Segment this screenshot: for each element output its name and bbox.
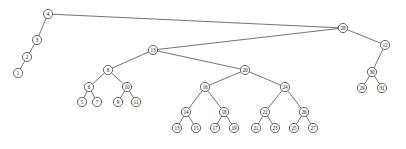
tree-node[interactable]: 7 xyxy=(92,97,101,106)
tree-node[interactable]: 31 xyxy=(377,83,386,92)
tree-node-circle xyxy=(229,123,238,132)
tree-edge xyxy=(39,18,46,36)
tree-edge xyxy=(84,91,87,98)
tree-node[interactable]: 29 xyxy=(357,83,366,92)
tree-edge xyxy=(208,91,221,109)
tree-node-circle xyxy=(122,82,131,91)
tree-edge xyxy=(158,51,241,69)
tree-node[interactable]: 20 xyxy=(240,65,249,74)
tree-node[interactable]: 17 xyxy=(210,123,219,132)
tree-edge xyxy=(364,76,369,84)
tree-node[interactable]: 13 xyxy=(172,123,181,132)
tree-node[interactable]: 26 xyxy=(299,107,308,116)
tree-node-circle xyxy=(240,65,249,74)
tree-node[interactable]: 19 xyxy=(229,123,238,132)
tree-node-circle xyxy=(377,83,386,92)
tree-node[interactable]: 23 xyxy=(270,123,279,132)
tree-node[interactable]: 14 xyxy=(181,107,190,116)
tree-node-circle xyxy=(103,65,112,74)
tree-node[interactable]: 18 xyxy=(219,107,228,116)
tree-node[interactable]: 21 xyxy=(251,123,260,132)
tree-node[interactable]: 15 xyxy=(191,123,200,132)
tree-node-circle xyxy=(113,97,122,106)
tree-node[interactable]: 24 xyxy=(280,82,289,91)
tree-edge xyxy=(296,116,301,124)
tree-node-circle xyxy=(270,123,279,132)
tree-node-circle xyxy=(367,67,376,76)
tree-edge xyxy=(188,116,193,124)
tree-node-circle xyxy=(92,97,101,106)
tree-node[interactable]: 11 xyxy=(131,97,140,106)
tree-node[interactable]: 4 xyxy=(43,9,52,18)
tree-edge xyxy=(374,76,379,84)
tree-edge xyxy=(53,14,339,28)
tree-node[interactable]: 28 xyxy=(338,23,347,32)
tree-edge xyxy=(158,29,339,50)
tree-node[interactable]: 5 xyxy=(77,97,86,106)
tree-node-circle xyxy=(357,83,366,92)
tree-node[interactable]: 9 xyxy=(113,97,122,106)
tree-edge xyxy=(267,116,272,124)
tree-node-circle xyxy=(191,123,200,132)
tree-edge xyxy=(129,91,133,98)
tree-edge xyxy=(179,116,183,124)
tree-node[interactable]: 3 xyxy=(32,35,41,44)
tree-node-circle xyxy=(32,35,41,44)
tree-edge xyxy=(111,73,123,84)
tree-edge xyxy=(112,52,149,68)
tree-node-circle xyxy=(13,68,22,77)
tree-edge xyxy=(258,116,262,124)
tree-node-circle xyxy=(22,52,31,61)
edge-layer xyxy=(20,14,383,124)
tree-node[interactable]: 16 xyxy=(200,82,209,91)
tree-node[interactable]: 8 xyxy=(103,65,112,74)
tree-node-circle xyxy=(338,23,347,32)
tree-node[interactable]: 13 xyxy=(148,45,157,54)
tree-node[interactable]: 2 xyxy=(22,52,31,61)
tree-node-circle xyxy=(251,123,260,132)
tree-node-circle xyxy=(289,123,298,132)
tree-node-circle xyxy=(181,107,190,116)
tree-edge xyxy=(120,91,124,98)
tree-node-circle xyxy=(131,97,140,106)
tree-edge xyxy=(209,72,241,85)
tree-edge xyxy=(189,91,202,109)
tree-node-circle xyxy=(260,107,269,116)
tree-edge xyxy=(20,61,24,69)
tree-node[interactable]: 25 xyxy=(289,123,298,132)
tree-edge xyxy=(217,116,221,124)
tree-edge xyxy=(92,73,104,84)
tree-node[interactable]: 22 xyxy=(260,107,269,116)
tree-edge xyxy=(91,91,95,98)
tree-node-circle xyxy=(299,107,308,116)
tree-edge xyxy=(288,91,301,109)
tree-node[interactable]: 12 xyxy=(380,40,389,49)
tree-edge xyxy=(374,49,383,68)
tree-edge xyxy=(347,30,380,44)
tree-node-circle xyxy=(380,40,389,49)
tree-node-circle xyxy=(200,82,209,91)
tree-node-circle xyxy=(148,45,157,54)
tree-node[interactable]: 27 xyxy=(308,123,317,132)
tree-node[interactable]: 10 xyxy=(122,82,131,91)
tree-node-circle xyxy=(219,107,228,116)
tree-diagram-figure: 1234567891011121314151617181920212223242… xyxy=(0,0,406,149)
tree-node-circle xyxy=(210,123,219,132)
tree-node-circle xyxy=(77,97,86,106)
tree-edge xyxy=(226,116,231,124)
tree-edge xyxy=(249,72,281,85)
tree-edge xyxy=(268,91,282,109)
tree-node-circle xyxy=(84,82,93,91)
tree-edge xyxy=(29,44,34,53)
tree-edge xyxy=(306,116,310,124)
tree-node[interactable]: 1 xyxy=(13,68,22,77)
tree-node[interactable]: 6 xyxy=(84,82,93,91)
tree-node[interactable]: 30 xyxy=(367,67,376,76)
tree-node-circle xyxy=(43,9,52,18)
tree-graph-canvas: 1234567891011121314151617181920212223242… xyxy=(0,0,406,149)
tree-node-circle xyxy=(280,82,289,91)
tree-node-circle xyxy=(172,123,181,132)
tree-node-circle xyxy=(308,123,317,132)
